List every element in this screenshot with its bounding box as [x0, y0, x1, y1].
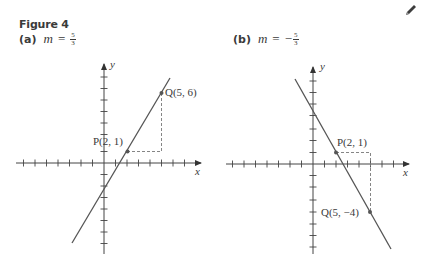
y-axis-label: y — [319, 60, 325, 72]
x-axis-label: x — [402, 166, 408, 178]
point-q-label: Q(5, 6) — [165, 86, 197, 99]
point-q — [368, 210, 372, 214]
x-axis — [16, 160, 201, 167]
point-q-label: Q(5, −4) — [321, 206, 359, 219]
line-positive-slope — [72, 78, 170, 243]
x-axis — [226, 161, 409, 168]
x-axis-label: x — [194, 165, 200, 177]
point-p-label: P(2, 1) — [93, 135, 123, 148]
point-p — [126, 150, 130, 154]
panel-b-graph: y x P(2, 1) Q(5, −4) — [226, 60, 409, 254]
point-p-label: P(2, 1) — [337, 136, 367, 149]
y-axis-label: y — [109, 58, 115, 70]
point-q — [160, 91, 164, 95]
y-axis — [310, 67, 317, 254]
y-axis — [101, 64, 108, 254]
panel-a-graph: y x P(2, 1) Q(5, 6) — [16, 58, 201, 254]
point-p — [334, 151, 338, 155]
figure-canvas: y x P(2, 1) Q(5, 6) — [0, 0, 426, 267]
